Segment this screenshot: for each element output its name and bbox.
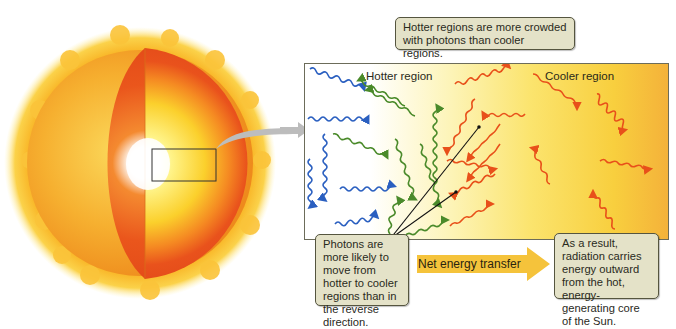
photon-field [305, 64, 668, 239]
callout-photon-direction: Photons are more likely to move from hot… [315, 234, 409, 306]
callout-radiation-result-text: As a result, radiation carries energy ou… [562, 237, 642, 327]
callout-photon-direction-text: Photons are more likely to move from hot… [323, 238, 398, 328]
callout-crowded-photons: Hotter regions are more crowded with pho… [395, 17, 575, 50]
hotter-region-label: Hotter region [366, 70, 432, 82]
pointer-lines [390, 127, 479, 239]
sun-cutaway-illustration [0, 0, 300, 315]
callout-radiation-result: As a result, radiation carries energy ou… [554, 233, 659, 299]
sun-core [126, 138, 170, 190]
callout-crowded-photons-text: Hotter regions are more crowded with pho… [403, 21, 567, 59]
orange-photons [447, 66, 650, 229]
green-photons [333, 80, 447, 236]
zoomed-panel: Hotter region Cooler region [304, 63, 669, 240]
cooler-region-label: Cooler region [545, 70, 614, 82]
net-energy-transfer-label: Net energy transfer [418, 257, 521, 271]
